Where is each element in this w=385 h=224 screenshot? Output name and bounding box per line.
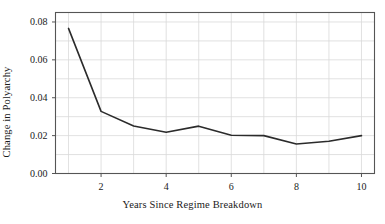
x-tick-label: 2: [89, 181, 113, 192]
line-chart-plot: [0, 0, 385, 224]
y-tick-label: 0.02: [14, 130, 48, 141]
data-series-line: [69, 28, 362, 144]
y-tick-label: 0.04: [14, 92, 48, 103]
chart-container: 0.000.020.040.060.08 246810 Years Since …: [0, 0, 385, 224]
x-tick-label: 6: [219, 181, 243, 192]
y-axis-title: Change in Polyarchy: [0, 0, 14, 224]
y-tick-label: 0.08: [14, 16, 48, 27]
plot-frame: [56, 13, 375, 174]
x-tick-label: 8: [284, 181, 308, 192]
tick-marks: [52, 22, 361, 177]
grid-lines: [56, 13, 375, 174]
y-tick-label: 0.06: [14, 54, 48, 65]
x-tick-label: 10: [349, 181, 373, 192]
x-tick-label: 4: [154, 181, 178, 192]
x-axis-title: Years Since Regime Breakdown: [0, 199, 385, 210]
y-tick-label: 0.00: [14, 168, 48, 179]
